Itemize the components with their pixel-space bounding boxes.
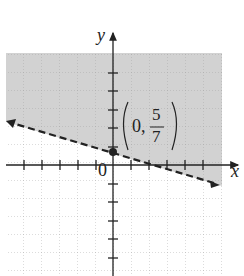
point-denominator: 7 xyxy=(152,127,161,147)
y-intercept-point xyxy=(109,148,117,156)
point-numerator: 5 xyxy=(152,105,161,125)
x-axis-label: x xyxy=(231,161,239,182)
point-x-label: 0, xyxy=(132,116,146,137)
graph xyxy=(0,0,244,276)
origin-label: 0 xyxy=(98,160,107,181)
y-axis-label: y xyxy=(97,25,105,46)
